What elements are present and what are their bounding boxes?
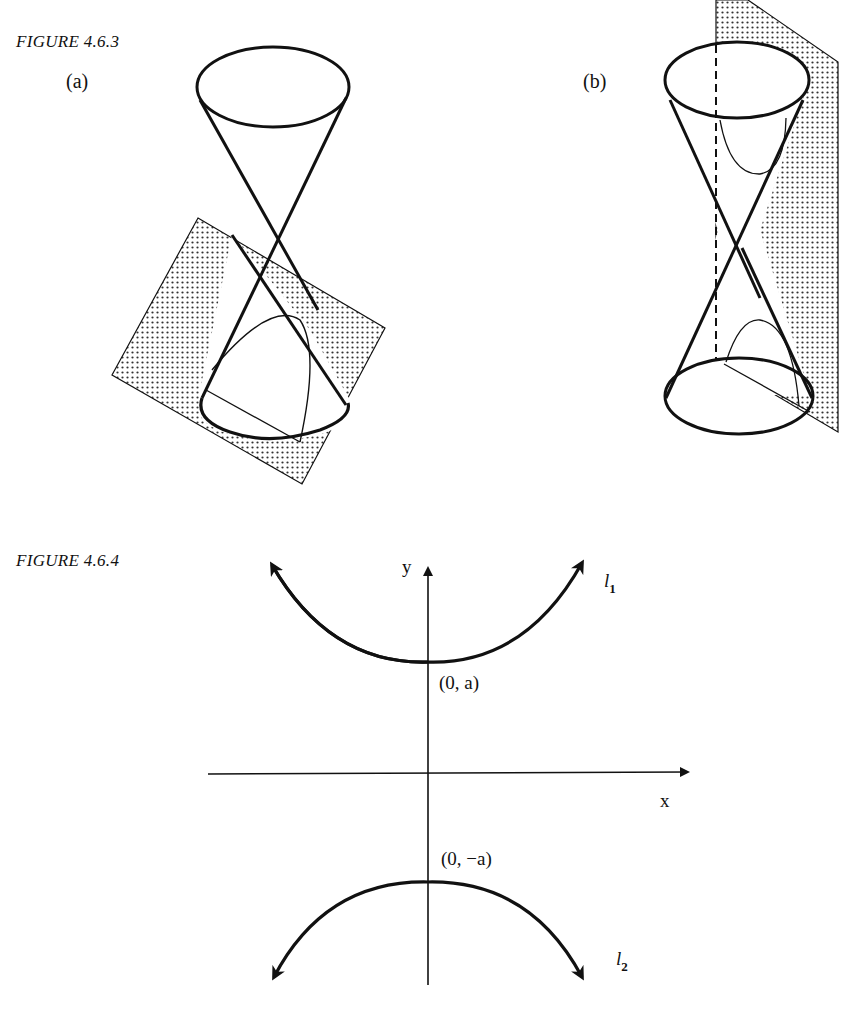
panel-label-a: (a) — [66, 70, 88, 93]
curve-label-l1: l1 — [604, 570, 616, 597]
upper-cone-rim-b — [665, 42, 809, 118]
figure-caption-4-6-3: FIGURE 4.6.3 — [16, 32, 119, 52]
upper-cone-rim — [197, 47, 349, 127]
point-label-0-neg-a: (0, −a) — [441, 848, 492, 870]
figure-a-cone-with-inclined-plane — [112, 47, 385, 484]
figure-caption-4-6-4: FIGURE 4.6.4 — [16, 551, 119, 571]
panel-label-b: (b) — [583, 70, 606, 93]
curve-l1 — [272, 563, 582, 662]
curve-label-l2: l2 — [616, 948, 628, 975]
y-axis-label: y — [402, 556, 412, 578]
figure-4-6-4-hyperbola-plot — [208, 563, 688, 985]
figure-b-cone-with-vertical-plane — [664, 0, 838, 434]
x-axis-label: x — [660, 790, 670, 812]
x-axis — [208, 772, 688, 774]
figure-canvas — [0, 0, 863, 1011]
curve-l2 — [428, 882, 582, 977]
point-label-0-a: (0, a) — [439, 672, 479, 694]
